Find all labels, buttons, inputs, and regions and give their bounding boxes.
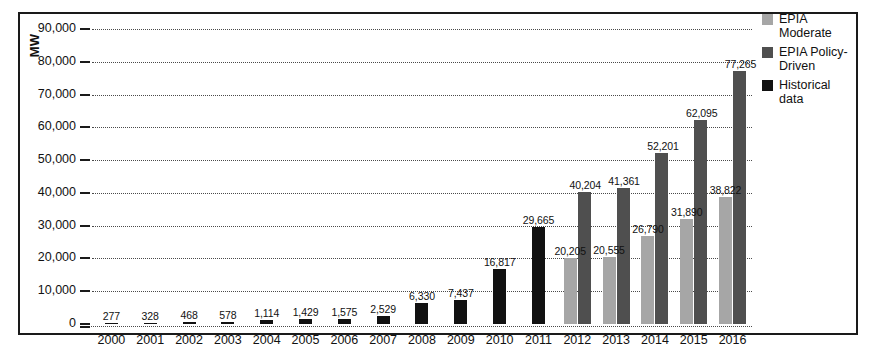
bar-group xyxy=(208,29,247,324)
y-tick-dash xyxy=(80,323,90,325)
x-tick-label: 2011 xyxy=(518,333,558,347)
x-tick-label: 2007 xyxy=(363,333,403,347)
bar-historical xyxy=(493,269,506,324)
bar-group xyxy=(131,29,170,324)
bar-policy xyxy=(733,71,746,324)
legend-swatch-moderate xyxy=(762,14,773,25)
bar-group xyxy=(170,29,209,324)
bar-policy xyxy=(655,153,668,324)
bar-group xyxy=(480,29,519,324)
bar-policy xyxy=(578,192,591,324)
legend-swatch-historical xyxy=(762,80,773,91)
x-tick-label: 2003 xyxy=(208,333,248,347)
bar-moderate xyxy=(641,236,654,324)
bar-value-label: 26,790 xyxy=(621,223,675,235)
y-tick-label: 20,000 xyxy=(38,250,76,264)
bar-group xyxy=(636,29,675,324)
x-tick-label: 2002 xyxy=(169,333,209,347)
y-tick-dash xyxy=(80,28,90,30)
x-tick-label: 2008 xyxy=(402,333,442,347)
y-tick-label: 0 xyxy=(69,316,76,330)
x-tick-label: 2005 xyxy=(286,333,326,347)
chart-figure: MW 90,00080,00070,00060,00050,00040,0003… xyxy=(18,12,858,335)
y-tick-dash xyxy=(80,126,90,128)
bar-historical xyxy=(183,322,196,324)
bar-group xyxy=(364,29,403,324)
bar-policy xyxy=(694,120,707,324)
bar-group xyxy=(441,29,480,324)
x-tick-label: 2013 xyxy=(596,333,636,347)
bar-historical xyxy=(260,320,273,324)
bar-group xyxy=(674,29,713,324)
bar-group xyxy=(403,29,442,324)
bar-policy xyxy=(617,188,630,324)
x-tick-label: 2016 xyxy=(713,333,753,347)
y-tick-dash xyxy=(80,192,90,194)
bar-historical xyxy=(415,303,428,324)
x-tick-label: 2006 xyxy=(324,333,364,347)
legend-item[interactable]: Historical data xyxy=(762,78,858,106)
bar-group xyxy=(713,29,752,324)
bar-value-label: 31,890 xyxy=(660,206,714,218)
legend-label: Historical data xyxy=(779,78,858,106)
bar-group xyxy=(325,29,364,324)
bar-historical xyxy=(144,323,157,324)
bar-historical xyxy=(377,316,390,324)
x-axis-line xyxy=(80,326,752,327)
y-tick-dash xyxy=(80,257,90,259)
bar-historical xyxy=(532,227,545,324)
y-tick-label: 60,000 xyxy=(38,119,76,133)
bar-value-label: 38,822 xyxy=(699,184,753,196)
legend-label: EPIA Moderate xyxy=(779,12,858,40)
bar-group xyxy=(286,29,325,324)
bar-group xyxy=(92,29,131,324)
bar-historical xyxy=(221,322,234,324)
x-tick-label: 2012 xyxy=(557,333,597,347)
bar-historical xyxy=(338,319,351,324)
zero-tick-dash xyxy=(80,326,90,328)
bar-moderate xyxy=(719,197,732,324)
bar-historical xyxy=(454,300,467,324)
bar-moderate xyxy=(603,257,616,324)
bar-group xyxy=(519,29,558,324)
bar-value-label: 77,265 xyxy=(714,58,768,70)
y-tick-label: 40,000 xyxy=(38,185,76,199)
y-tick-dash xyxy=(80,159,90,161)
bar-historical xyxy=(299,319,312,324)
legend-item[interactable]: EPIA Policy-Driven xyxy=(762,45,858,73)
x-tick-label: 2001 xyxy=(130,333,170,347)
legend-swatch-policy xyxy=(762,47,773,58)
chart-legend: EPIA ModerateEPIA Policy-DrivenHistorica… xyxy=(762,12,858,111)
legend-label: EPIA Policy-Driven xyxy=(779,45,858,73)
y-tick-label: 90,000 xyxy=(38,21,76,35)
x-tick-label: 2015 xyxy=(674,333,714,347)
bar-moderate xyxy=(564,258,577,324)
x-tick-label: 2000 xyxy=(91,333,131,347)
y-tick-label: 10,000 xyxy=(38,283,76,297)
legend-item[interactable]: EPIA Moderate xyxy=(762,12,858,40)
y-tick-dash xyxy=(80,225,90,227)
x-tick-label: 2014 xyxy=(635,333,675,347)
bar-group xyxy=(558,29,597,324)
bar-historical xyxy=(105,323,118,324)
y-tick-dash xyxy=(80,290,90,292)
bar-series-container: 2773284685781,1141,4291,5752,5296,3307,4… xyxy=(92,17,752,327)
y-tick-dash xyxy=(80,94,90,96)
bar-value-label: 20,555 xyxy=(582,244,636,256)
plot-area: 90,00080,00070,00060,00050,00040,00030,0… xyxy=(92,17,752,327)
y-tick-label: 50,000 xyxy=(38,152,76,166)
bar-moderate xyxy=(680,219,693,324)
y-tick-label: 70,000 xyxy=(38,87,76,101)
y-tick-label: 80,000 xyxy=(38,54,76,68)
bar-group xyxy=(247,29,286,324)
x-tick-label: 2004 xyxy=(247,333,287,347)
y-tick-label: 30,000 xyxy=(38,218,76,232)
x-tick-label: 2009 xyxy=(441,333,481,347)
y-tick-dash xyxy=(80,61,90,63)
x-tick-label: 2010 xyxy=(480,333,520,347)
